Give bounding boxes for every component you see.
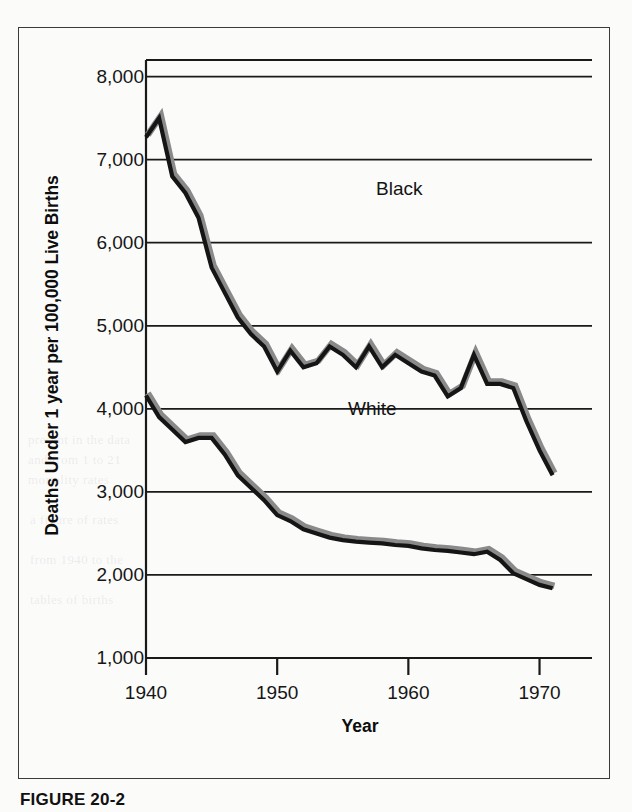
gridlines-group xyxy=(146,60,592,658)
y-tick-label-3000: 3,000 xyxy=(96,481,144,503)
y-tick-label-8000: 8,000 xyxy=(96,66,144,88)
x-tick-label-1970: 1970 xyxy=(518,682,560,704)
series-label-white: White xyxy=(348,398,397,420)
series-line-black xyxy=(146,118,553,475)
y-tick-label-5000: 5,000 xyxy=(96,315,144,337)
y-tick-label-1000: 1,000 xyxy=(96,647,144,669)
y-axis-title: Deaths Under 1 year per 100,000 Live Bir… xyxy=(42,136,63,576)
x-axis-title: Year xyxy=(150,716,570,737)
x-tick-label-1940: 1940 xyxy=(125,682,167,704)
y-tick-label-7000: 7,000 xyxy=(96,149,144,171)
data-series-group xyxy=(146,116,554,589)
y-tick-label-6000: 6,000 xyxy=(96,232,144,254)
figure-caption: FIGURE 20-2 xyxy=(20,790,125,812)
y-tick-label-2000: 2,000 xyxy=(96,564,144,586)
y-tick-label-4000: 4,000 xyxy=(96,398,144,420)
x-tick-label-1960: 1960 xyxy=(387,682,429,704)
x-axis-ticks-group xyxy=(146,658,540,675)
series-label-black: Black xyxy=(376,178,422,200)
x-tick-label-1950: 1950 xyxy=(256,682,298,704)
